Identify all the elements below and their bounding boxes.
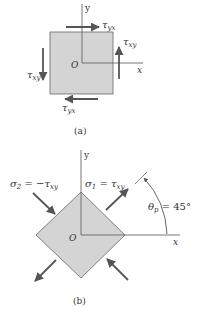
stress-element-diagram: y x O τyx τyx τxy τxy (a) y x O [0, 0, 200, 321]
caption-a: (a) [74, 126, 86, 136]
label-right-tau-xy: τxy [123, 36, 137, 49]
x-axis-label: x [137, 65, 142, 75]
figure-b: y x O θp = 45° σ2 = −τxy σ1 = τxy (b) [10, 150, 191, 306]
theta-reference-line [135, 172, 147, 184]
arrow-sigma1-lower-left [35, 260, 56, 281]
origin-label: O [69, 233, 77, 243]
figure-a: y x O τyx τyx τxy τxy (a) [27, 3, 143, 136]
label-bottom-tau-yx: τyx [62, 102, 76, 115]
label-top-tau-yx: τyx [102, 19, 116, 32]
y-axis-label: y [83, 150, 90, 160]
arrow-sigma2-lower-right [107, 259, 128, 280]
caption-b: (b) [73, 296, 86, 306]
arrow-sigma2-upper-left [33, 193, 55, 214]
label-left-tau-xy: τxy [27, 69, 41, 82]
label-sigma2: σ2 = −τxy [10, 178, 59, 191]
arrow-sigma1-upper-right [106, 189, 128, 210]
theta-label: θp = 45° [148, 201, 191, 214]
y-axis-label: y [84, 3, 91, 13]
label-sigma1: σ1 = τxy [85, 178, 126, 191]
origin-label: O [71, 60, 79, 70]
x-axis-label: x [173, 237, 178, 247]
